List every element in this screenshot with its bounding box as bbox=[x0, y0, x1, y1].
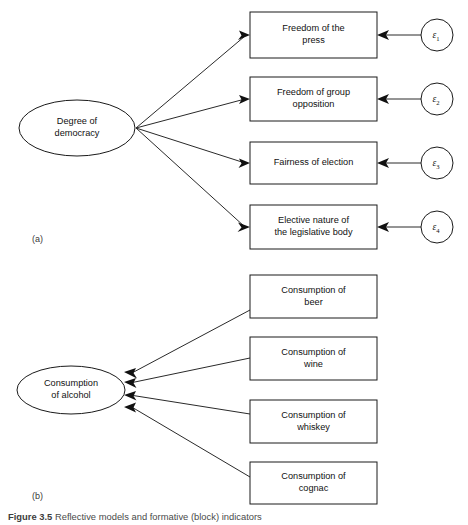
error-subscript-a-1: 1 bbox=[436, 35, 439, 42]
error-subscript-a-2: 2 bbox=[436, 99, 439, 106]
arrowhead-a-3 bbox=[239, 159, 251, 169]
figure-caption-prefix: Figure 3.5 bbox=[8, 512, 52, 522]
path-b-1 bbox=[130, 310, 250, 374]
path-diagram-canvas: Degree of democracy Freedom of the press… bbox=[0, 0, 468, 525]
indicator-label-a-2-line1: Freedom of group bbox=[277, 87, 350, 97]
panel-label-a: (a) bbox=[32, 234, 43, 244]
path-b-3 bbox=[130, 395, 250, 414]
indicator-label-a-3-line1: Fairness of election bbox=[274, 157, 354, 167]
path-a-3 bbox=[136, 128, 245, 163]
latent-label-a-line1: Degree of bbox=[57, 116, 98, 126]
indicator-label-a-4-line1: Elective nature of bbox=[278, 215, 349, 225]
path-a-4 bbox=[136, 128, 245, 227]
path-a-2 bbox=[136, 99, 245, 128]
latent-label-b-line2: of alcohol bbox=[51, 390, 90, 400]
arrowhead-a-2 bbox=[239, 95, 250, 104]
indicator-label-b-1-line1: Consumption of bbox=[281, 285, 346, 295]
path-b-4 bbox=[130, 406, 250, 477]
arrowhead-b-1 bbox=[124, 368, 137, 379]
indicator-label-a-2-line2: opposition bbox=[293, 99, 335, 109]
arrowhead-b-2 bbox=[124, 378, 137, 388]
arrowhead-a-1 bbox=[238, 31, 250, 41]
indicator-label-a-4-line2: the legislative body bbox=[274, 227, 353, 237]
path-a-1 bbox=[136, 36, 245, 128]
indicator-label-a-1-line2: press bbox=[302, 35, 325, 45]
indicator-label-a-1-line1: Freedom of the bbox=[282, 23, 344, 33]
arrowhead-b-4 bbox=[124, 403, 136, 413]
latent-label-b-line1: Consumption bbox=[44, 378, 98, 388]
panel-label-b: (b) bbox=[32, 491, 43, 501]
latent-label-a-line2: democracy bbox=[55, 128, 100, 138]
indicator-label-b-4-line1: Consumption of bbox=[281, 471, 346, 481]
indicator-label-b-2-line1: Consumption of bbox=[281, 347, 346, 357]
figure-container: Degree of democracy Freedom of the press… bbox=[0, 0, 468, 525]
indicator-label-b-1-line2: beer bbox=[304, 297, 322, 307]
figure-caption-body: Reflective models and formative (block) … bbox=[55, 512, 262, 522]
indicator-label-b-3-line1: Consumption of bbox=[281, 410, 346, 420]
indicator-label-b-4-line2: cognac bbox=[299, 483, 329, 493]
indicator-label-b-3-line2: whiskey bbox=[296, 422, 330, 432]
path-b-2 bbox=[130, 358, 250, 383]
indicator-label-b-2-line2: wine bbox=[303, 359, 323, 369]
figure-caption: Figure 3.5 Reflective models and formati… bbox=[8, 512, 262, 522]
arrowhead-a-4 bbox=[238, 223, 251, 233]
figure-caption-strip: Figure 3.5 Reflective models and formati… bbox=[0, 512, 468, 525]
